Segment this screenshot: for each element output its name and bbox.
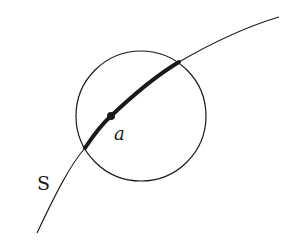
- diagram-canvas: a S: [0, 0, 306, 249]
- curve-label: S: [37, 172, 50, 194]
- point-a: [107, 112, 115, 120]
- neighborhood-circle: [76, 51, 206, 181]
- point-label: a: [114, 123, 125, 144]
- curve-s: [37, 17, 279, 233]
- highlighted-arc: [85, 62, 179, 148]
